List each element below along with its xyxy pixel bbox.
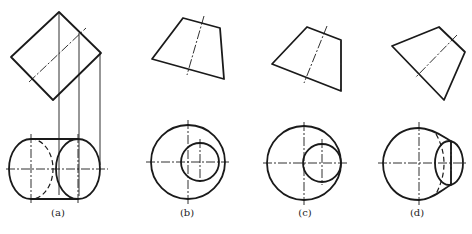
figure-b-trapezoid	[152, 18, 224, 79]
figure-c	[263, 26, 347, 205]
figure-c-trapezoid	[272, 27, 341, 91]
figure-d	[378, 27, 466, 205]
figure-b-label: (b)	[180, 207, 194, 218]
technical-drawing	[0, 0, 472, 234]
figure-d-label: (d)	[410, 207, 424, 218]
figure-c-label: (c)	[298, 207, 311, 218]
figure-a	[6, 12, 108, 204]
figure-a-axis	[29, 28, 86, 82]
figure-d-axis	[415, 35, 457, 78]
figure-b	[146, 16, 229, 205]
figure-c-axis	[304, 26, 327, 83]
figure-b-axis	[187, 16, 204, 75]
figure-d-cone-outline	[383, 128, 451, 200]
figure-a-label: (a)	[51, 207, 65, 218]
